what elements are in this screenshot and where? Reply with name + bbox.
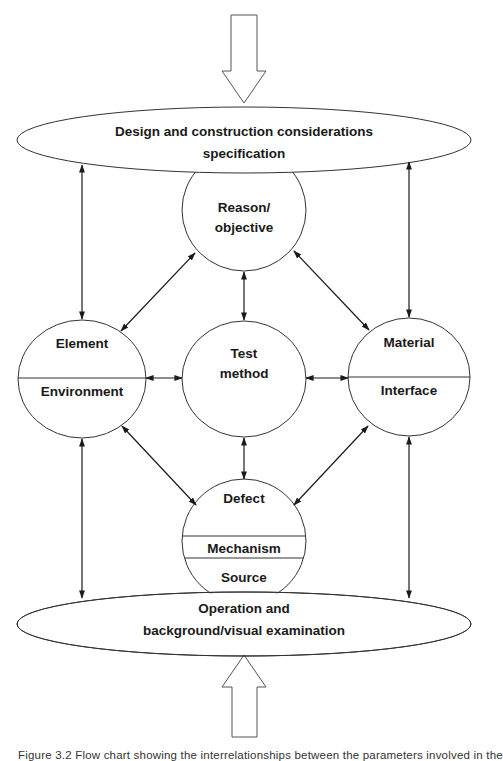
- element-label: Element: [56, 336, 109, 351]
- environment-label: Environment: [41, 384, 124, 399]
- arrow-material-defect: [294, 426, 368, 505]
- test-line1: Test: [231, 346, 258, 361]
- defect-label: Defect: [223, 491, 265, 506]
- arrow-element-defect: [122, 426, 196, 505]
- arrow-reason-element: [121, 253, 195, 331]
- top-ellipse-line1: Design and construction considerations: [115, 124, 373, 139]
- node-material-interface: Material Interface: [348, 318, 470, 436]
- input-arrow-icon: [222, 15, 266, 103]
- mechanism-label: Mechanism: [207, 541, 281, 556]
- test-line2: method: [220, 366, 269, 381]
- node-element-environment: Element Environment: [18, 320, 146, 438]
- node-test-method: Test method: [182, 321, 306, 437]
- top-ellipse-design: Design and construction considerations s…: [17, 107, 471, 173]
- bottom-ellipse-line1: Operation and: [198, 601, 290, 616]
- bottom-ellipse-operation: Operation and background/visual examinat…: [17, 592, 471, 656]
- node-defect: Defect Mechanism Source: [180, 479, 308, 603]
- figure-caption: Figure 3.2 Flow chart showing the interr…: [18, 749, 488, 761]
- bottom-ellipse-line2: background/visual examination: [143, 623, 345, 638]
- reason-line2: objective: [215, 220, 274, 235]
- material-label: Material: [383, 335, 434, 350]
- arrow-reason-material: [294, 251, 369, 330]
- interface-label: Interface: [381, 383, 438, 398]
- reason-line1: Reason/: [218, 200, 271, 215]
- source-label: Source: [221, 570, 267, 585]
- feedback-arrow-icon: [222, 655, 266, 737]
- top-ellipse-line2: specification: [203, 146, 286, 161]
